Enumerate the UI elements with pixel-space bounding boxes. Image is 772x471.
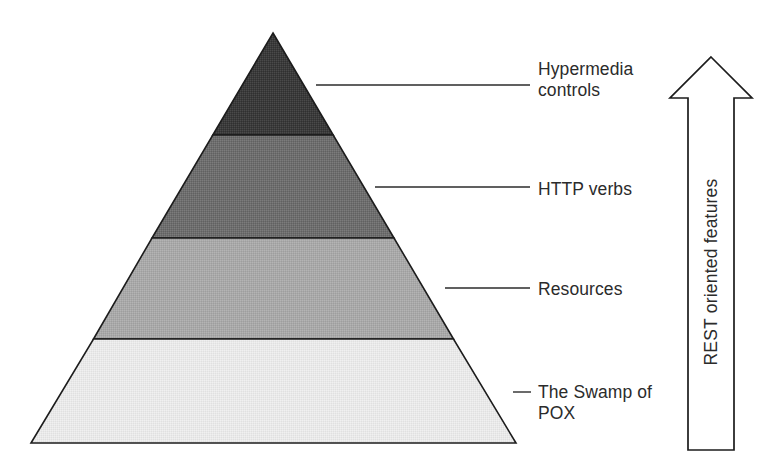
label-resources-line1: Resources <box>538 279 623 299</box>
label-the-swamp-of-pox-line1: The Swamp of <box>538 382 652 402</box>
pyramid-layer-the-swamp-of-pox <box>31 339 516 443</box>
label-hypermedia-controls: Hypermediacontrols <box>538 59 633 101</box>
figure-canvas: Hypermediacontrols HTTP verbs Resources … <box>0 0 772 471</box>
label-the-swamp-of-pox-line2: POX <box>538 403 575 423</box>
label-http-verbs: HTTP verbs <box>538 179 632 200</box>
label-the-swamp-of-pox: The Swamp ofPOX <box>538 382 652 424</box>
pyramid-layer-http-verbs <box>152 135 394 238</box>
label-hypermedia-controls-line1: Hypermedia <box>538 59 633 79</box>
pyramid-layer-resources <box>94 238 454 339</box>
rest-oriented-features-caption: REST oriented features <box>701 179 722 366</box>
pyramid-figure <box>0 0 772 471</box>
label-hypermedia-controls-line2: controls <box>538 80 600 100</box>
label-http-verbs-line1: HTTP verbs <box>538 179 632 199</box>
pyramid-layer-hypermedia-controls <box>213 33 333 135</box>
label-resources: Resources <box>538 279 623 300</box>
